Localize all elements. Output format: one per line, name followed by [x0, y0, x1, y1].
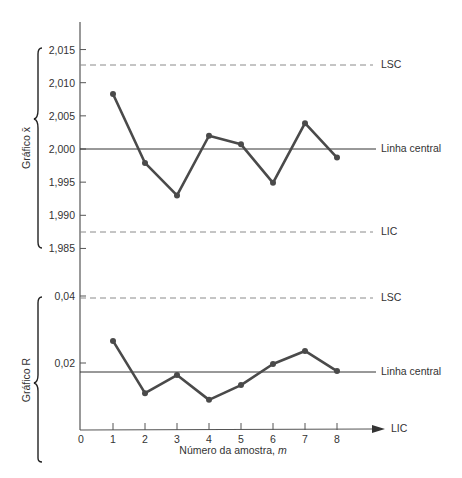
r-series: [110, 338, 340, 403]
y-tick-label: 2,015: [49, 44, 75, 56]
xbar-brace-icon: [34, 48, 42, 248]
r-center-label: Linha central: [381, 365, 441, 377]
y-tick-label: 2,005: [49, 110, 75, 122]
x-tick-label: 8: [334, 433, 340, 445]
xbar-control-lines: LSC Linha central LIC: [80, 58, 441, 237]
data-point: [110, 91, 116, 97]
data-line: [113, 94, 337, 195]
xbar-center-label: Linha central: [381, 142, 441, 154]
r-brace-icon: [34, 297, 42, 462]
x-ticks: 012345678: [78, 423, 340, 445]
y-tick-label: 2,010: [49, 77, 75, 89]
xbar-lcl-label: LIC: [381, 225, 398, 237]
data-point: [238, 141, 244, 147]
y-tick-label: 1,995: [49, 176, 75, 188]
y-tick-label: 0,04: [55, 290, 76, 302]
xbar-chart-label: Gráfico x̄: [20, 126, 32, 169]
data-point: [270, 180, 276, 186]
data-point: [302, 348, 308, 354]
y-tick-label: 1,990: [49, 209, 75, 221]
r-ucl-label: LSC: [381, 291, 402, 303]
x-axis-title: Número da amostra, m: [179, 444, 287, 456]
y-tick-label: 2,000: [49, 143, 75, 155]
data-point: [270, 361, 276, 367]
x-tick-label: 2: [142, 433, 148, 445]
data-point: [334, 368, 340, 374]
xbar-series: [110, 91, 340, 198]
data-point: [206, 397, 212, 403]
data-point: [110, 338, 116, 344]
r-y-ticks: 0,040,02: [55, 290, 86, 369]
data-point: [206, 133, 212, 139]
data-point: [174, 372, 180, 378]
data-point: [334, 155, 340, 161]
data-point: [238, 382, 244, 388]
r-chart-label: Gráfico R: [20, 357, 32, 402]
data-point: [302, 120, 308, 126]
xbar-ucl-label: LSC: [381, 58, 402, 70]
y-tick-label: 1,985: [49, 242, 75, 254]
r-control-lines: LSC Linha central LIC: [80, 291, 441, 434]
y-tick-label: 0,02: [55, 357, 76, 369]
x-axis: [80, 429, 372, 430]
x-axis-arrow-icon: [372, 425, 385, 433]
x-tick-label: 7: [302, 433, 308, 445]
r-lcl-label: LIC: [391, 422, 408, 434]
data-point: [142, 160, 148, 166]
data-point: [142, 390, 148, 396]
x-tick-label: 1: [110, 433, 116, 445]
x-tick-label: 0: [78, 433, 84, 445]
data-point: [174, 192, 180, 198]
control-chart: 2,0152,0102,0052,0001,9951,9901,985 0,04…: [0, 0, 462, 478]
